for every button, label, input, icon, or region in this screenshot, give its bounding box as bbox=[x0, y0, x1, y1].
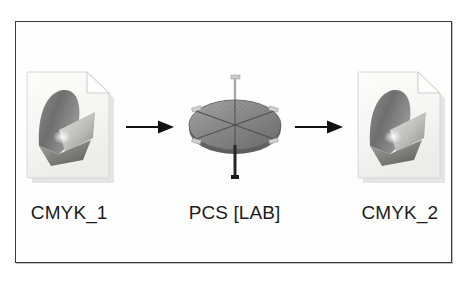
workflow-row bbox=[16, 64, 453, 189]
workflow-label-row: CMYK_1 PCS [LAB] CMYK_2 bbox=[16, 196, 453, 230]
arrow-head bbox=[158, 120, 174, 133]
node-pcs-lab[interactable] bbox=[180, 66, 290, 188]
connector-arrow-2 bbox=[290, 112, 348, 142]
lab-colorspace-icon bbox=[180, 67, 290, 187]
page-fold-corner bbox=[418, 72, 440, 93]
axis-lightness-down-cap bbox=[231, 175, 239, 179]
document-gamut-icon bbox=[21, 68, 117, 186]
arrow-head bbox=[327, 120, 343, 133]
gamut-highlight bbox=[53, 130, 71, 144]
axis-lightness-up-cap bbox=[231, 75, 240, 79]
figure-canvas: CMYK_1 PCS [LAB] CMYK_2 bbox=[0, 0, 468, 287]
node-label-cmyk-2: CMYK_2 bbox=[347, 202, 453, 224]
arrow-right-icon bbox=[293, 118, 345, 136]
document-gamut-icon bbox=[352, 68, 448, 186]
gamut-highlight bbox=[384, 130, 402, 144]
node-cmyk-2[interactable] bbox=[348, 66, 453, 188]
node-label-pcs-lab: PCS [LAB] bbox=[181, 202, 287, 224]
connector-arrow-1 bbox=[121, 112, 179, 142]
page-fold-corner bbox=[87, 72, 109, 93]
diagram-frame: CMYK_1 PCS [LAB] CMYK_2 bbox=[15, 21, 452, 263]
arrow-right-icon bbox=[124, 118, 176, 136]
node-label-cmyk-1: CMYK_1 bbox=[16, 202, 122, 224]
node-cmyk-1[interactable] bbox=[16, 66, 121, 188]
